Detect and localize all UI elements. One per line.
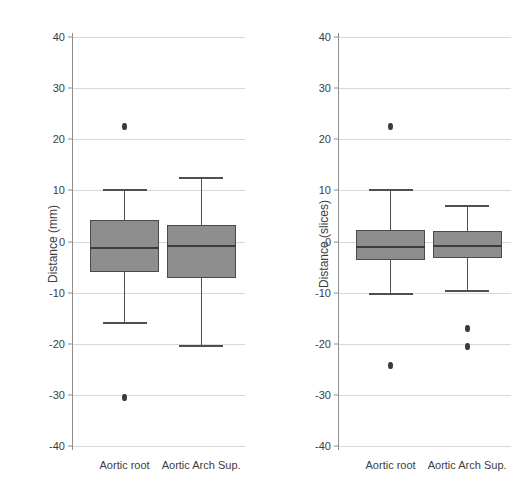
- upper-whisker-cap: [103, 189, 147, 191]
- y-tick-label: -30: [25, 389, 65, 400]
- upper-whisker-line: [201, 178, 202, 225]
- y-tick-mark: [334, 343, 339, 344]
- y-tick-mark: [334, 37, 339, 38]
- box-plot: [356, 37, 425, 446]
- y-tick-mark: [68, 139, 73, 140]
- lower-whisker-cap: [445, 290, 489, 292]
- lower-whisker-cap: [179, 345, 223, 347]
- y-tick-mark: [334, 292, 339, 293]
- y-tick-mark: [68, 241, 73, 242]
- y-tick-label: -20: [291, 338, 331, 349]
- y-tick-mark: [68, 37, 73, 38]
- y-tick-mark: [334, 241, 339, 242]
- x-tick-label: Aortic Arch Sup.: [428, 459, 507, 471]
- y-tick-mark: [334, 88, 339, 89]
- median-line: [90, 247, 159, 249]
- lower-whisker-line: [124, 272, 125, 323]
- upper-whisker-cap: [369, 189, 413, 191]
- median-line: [167, 245, 236, 247]
- upper-whisker-cap: [445, 205, 489, 207]
- y-tick-mark: [68, 88, 73, 89]
- outlier-point: [122, 123, 127, 130]
- y-tick-label: 0: [25, 236, 65, 247]
- x-tick-label: Aortic Arch Sup.: [162, 459, 241, 471]
- box-plot: [167, 37, 236, 446]
- lower-whisker-line: [390, 260, 391, 294]
- y-tick-label: -40: [291, 441, 331, 452]
- plot-area-left: 403020100-10-20-30-40Aortic rootAortic A…: [73, 37, 245, 446]
- outlier-point: [122, 394, 127, 401]
- y-tick-mark: [68, 446, 73, 447]
- gridline: [339, 446, 511, 447]
- lower-whisker-line: [201, 278, 202, 345]
- lower-whisker-line: [467, 258, 468, 291]
- y-tick-label: -20: [25, 338, 65, 349]
- outlier-point: [388, 362, 393, 369]
- y-tick-mark: [334, 446, 339, 447]
- y-tick-label: -10: [25, 287, 65, 298]
- upper-whisker-line: [124, 190, 125, 219]
- median-line: [356, 246, 425, 248]
- y-tick-label: 20: [25, 134, 65, 145]
- y-tick-label: -30: [291, 389, 331, 400]
- y-tick-label: 0: [291, 236, 331, 247]
- median-line: [433, 245, 502, 247]
- upper-whisker-line: [467, 206, 468, 232]
- y-tick-label: 30: [25, 83, 65, 94]
- boxplot-figure: Distance (mm) 403020100-10-20-30-40Aorti…: [0, 0, 531, 487]
- box-iqr: [167, 225, 236, 279]
- y-tick-mark: [334, 394, 339, 395]
- y-tick-mark: [334, 139, 339, 140]
- y-tick-mark: [68, 190, 73, 191]
- panel-distance-mm: Distance (mm) 403020100-10-20-30-40Aorti…: [0, 0, 265, 487]
- upper-whisker-line: [390, 190, 391, 230]
- y-tick-mark: [68, 394, 73, 395]
- y-tick-label: 40: [25, 32, 65, 43]
- plot-area-right: 403020100-10-20-30-40Aortic rootAortic A…: [339, 37, 511, 446]
- y-tick-label: -10: [291, 287, 331, 298]
- panel-distance-slices: Distance (slices) 403020100-10-20-30-40A…: [266, 0, 531, 487]
- box-plot: [90, 37, 159, 446]
- y-tick-mark: [68, 292, 73, 293]
- y-tick-label: 20: [291, 134, 331, 145]
- outlier-point: [388, 123, 393, 130]
- lower-whisker-cap: [103, 322, 147, 324]
- box-plot: [433, 37, 502, 446]
- outlier-point: [465, 325, 470, 332]
- upper-whisker-cap: [179, 177, 223, 179]
- y-tick-label: -40: [25, 441, 65, 452]
- x-tick-label: Aortic root: [366, 459, 416, 471]
- y-tick-label: 10: [25, 185, 65, 196]
- y-tick-label: 10: [291, 185, 331, 196]
- y-tick-label: 40: [291, 32, 331, 43]
- box-iqr: [90, 220, 159, 272]
- x-tick-label: Aortic root: [100, 459, 150, 471]
- lower-whisker-cap: [369, 293, 413, 295]
- outlier-point: [465, 343, 470, 350]
- y-tick-label: 30: [291, 83, 331, 94]
- y-tick-mark: [68, 343, 73, 344]
- y-tick-mark: [334, 190, 339, 191]
- gridline: [73, 446, 245, 447]
